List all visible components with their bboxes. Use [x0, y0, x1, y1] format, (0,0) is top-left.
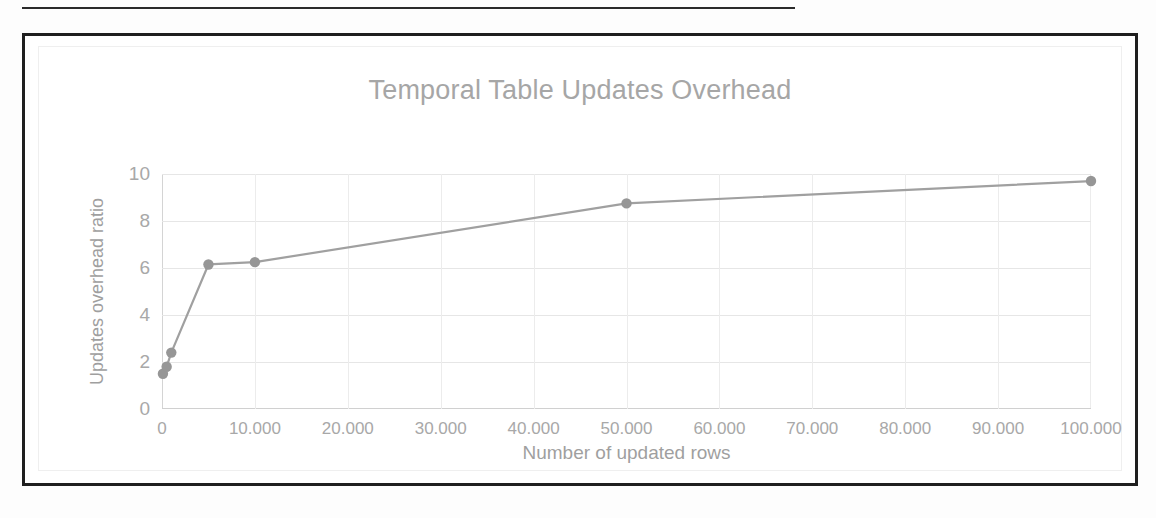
y-tick-label: 4: [139, 304, 150, 326]
y-tick-label: 2: [139, 351, 150, 373]
x-tick-label: 100.000: [1060, 419, 1121, 439]
x-tick-label: 20.000: [322, 419, 374, 439]
data-series: [162, 174, 1091, 409]
data-point: [1086, 176, 1096, 186]
y-axis-title: Updates overhead ratio: [87, 174, 109, 409]
x-tick-label: 30.000: [415, 419, 467, 439]
x-tick-label: 0: [157, 419, 166, 439]
x-tick-label: 70.000: [786, 419, 838, 439]
data-point: [203, 259, 213, 269]
y-tick-label: 0: [139, 398, 150, 420]
plot-area: 0246810 010.00020.00030.00040.00050.0006…: [162, 174, 1091, 409]
x-tick-label: 40.000: [508, 419, 560, 439]
figure-frame: Temporal Table Updates Overhead 0246810 …: [22, 33, 1138, 486]
x-tick-label: 80.000: [879, 419, 931, 439]
x-tick-label: 10.000: [229, 419, 281, 439]
data-point: [621, 198, 631, 208]
series-markers: [158, 176, 1096, 379]
page-horizontal-rule: [22, 7, 795, 9]
chart-title: Temporal Table Updates Overhead: [39, 75, 1121, 106]
chart-area: Temporal Table Updates Overhead 0246810 …: [38, 46, 1122, 471]
y-tick-label: 8: [139, 210, 150, 232]
y-tick-label: 10: [129, 163, 150, 185]
data-point: [166, 347, 176, 357]
x-axis-title: Number of updated rows: [162, 442, 1091, 464]
x-tick-label: 90.000: [972, 419, 1024, 439]
x-tick-label: 50.000: [601, 419, 653, 439]
data-point: [250, 257, 260, 267]
y-tick-label: 6: [139, 257, 150, 279]
x-tick-label: 60.000: [693, 419, 745, 439]
data-point: [161, 362, 171, 372]
series-line: [163, 181, 1091, 374]
